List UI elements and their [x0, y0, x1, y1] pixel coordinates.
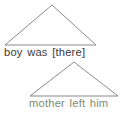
- syntax-tree-figure: boy was [there] mother left him: [0, 0, 123, 116]
- constituent-triangle-upper: [5, 5, 96, 45]
- constituent-label-upper: boy was [there]: [4, 46, 85, 58]
- constituent-triangle-lower: [30, 62, 118, 96]
- constituent-label-lower: mother left him: [29, 97, 108, 109]
